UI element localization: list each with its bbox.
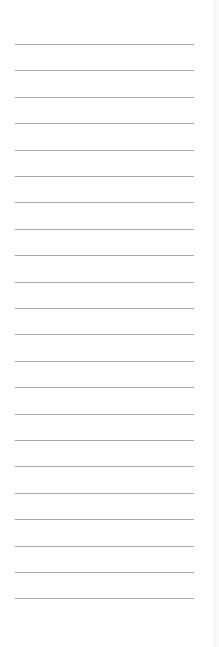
ruled-line	[15, 308, 194, 309]
ruled-line	[15, 202, 194, 203]
scrollbar-track[interactable]	[215, 0, 219, 647]
ruled-lines-panel	[0, 0, 214, 647]
ruled-line	[15, 387, 194, 388]
ruled-line	[15, 519, 194, 520]
ruled-line	[15, 572, 194, 573]
ruled-line	[15, 44, 194, 45]
ruled-line	[15, 361, 194, 362]
ruled-line	[15, 97, 194, 98]
ruled-line	[15, 176, 194, 177]
ruled-line	[15, 282, 194, 283]
ruled-line	[15, 123, 194, 124]
ruled-line	[15, 546, 194, 547]
ruled-line	[15, 70, 194, 71]
ruled-line	[15, 440, 194, 441]
ruled-line	[15, 598, 194, 599]
ruled-line	[15, 466, 194, 467]
ruled-line	[15, 150, 194, 151]
ruled-line	[15, 334, 194, 335]
ruled-line	[15, 493, 194, 494]
ruled-line	[15, 255, 194, 256]
ruled-line	[15, 414, 194, 415]
ruled-line	[15, 229, 194, 230]
